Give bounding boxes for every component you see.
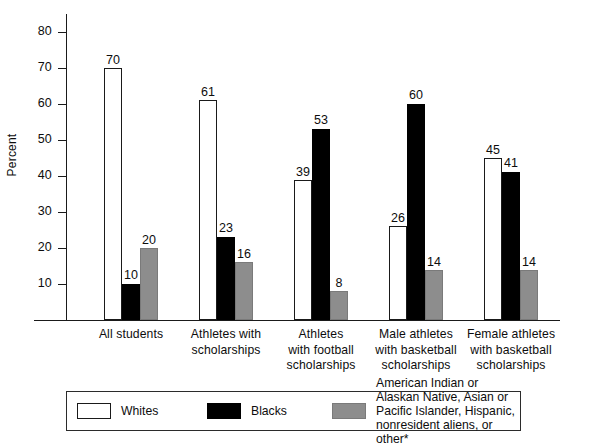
bar-group: 612316 [199, 14, 253, 320]
bar: 70 [104, 68, 122, 320]
bar: 20 [140, 248, 158, 320]
bar: 41 [502, 172, 520, 320]
bar-value-label: 39 [296, 166, 310, 179]
bar-group: 266014 [389, 14, 443, 320]
y-axis-tick-label: 30 [0, 205, 52, 217]
legend-item: American Indian or Alaskan Native, Asian… [332, 392, 520, 430]
y-axis-tick-label: 60 [0, 97, 52, 109]
bar-value-label: 10 [124, 269, 138, 282]
y-axis-tick [58, 248, 66, 249]
y-axis-tick-label: 40 [0, 169, 52, 181]
bar: 45 [484, 158, 502, 320]
legend-swatch [77, 403, 111, 419]
bar-value-label: 8 [336, 277, 343, 290]
bar: 16 [235, 262, 253, 320]
bar: 10 [122, 284, 140, 320]
bar-value-label: 60 [409, 89, 423, 102]
legend-swatch [207, 403, 241, 419]
bar-value-label: 70 [106, 54, 120, 67]
bar: 26 [389, 226, 407, 320]
bar: 14 [520, 270, 538, 320]
bar: 39 [294, 180, 312, 320]
bar: 8 [330, 291, 348, 320]
y-axis-tick [58, 104, 66, 105]
bar: 14 [425, 270, 443, 320]
bar-value-label: 61 [201, 86, 215, 99]
bar: 53 [312, 129, 330, 320]
x-axis-category-label: Female athletes with basketball scholars… [452, 327, 570, 374]
y-axis-tick-label: 20 [0, 241, 52, 253]
bar-value-label: 26 [391, 212, 405, 225]
y-axis-tick [58, 284, 66, 285]
y-axis-tick [58, 140, 66, 141]
legend-swatch [332, 403, 366, 419]
bar-group: 701020 [104, 14, 158, 320]
y-axis-tick [58, 212, 66, 213]
bar: 60 [407, 104, 425, 320]
bar-value-label: 53 [314, 114, 328, 127]
y-axis-tick-label: 70 [0, 61, 52, 73]
bar-value-label: 23 [219, 222, 233, 235]
bar-value-label: 45 [486, 144, 500, 157]
bar-value-label: 14 [427, 256, 441, 269]
bar-value-label: 20 [142, 234, 156, 247]
bar-group: 454114 [484, 14, 538, 320]
legend-item: Blacks [207, 392, 287, 430]
bar: 23 [217, 237, 235, 320]
plot-area: 70102061231639538266014454114 [66, 14, 560, 320]
legend-item: Whites [77, 392, 158, 430]
bar-value-label: 14 [522, 256, 536, 269]
bar-group: 39538 [294, 14, 348, 320]
y-axis-tick-label: 10 [0, 277, 52, 289]
legend-label: Blacks [251, 404, 287, 418]
legend-label: American Indian or Alaskan Native, Asian… [376, 376, 520, 446]
y-axis-tick-label: 50 [0, 133, 52, 145]
y-axis-tick [58, 32, 66, 33]
legend-label: Whites [121, 404, 158, 418]
bar: 61 [199, 100, 217, 320]
y-axis-tick [58, 68, 66, 69]
y-axis-tick-label: 80 [0, 25, 52, 37]
chart-legend: WhitesBlacksAmerican Indian or Alaskan N… [66, 391, 521, 431]
bar-value-label: 16 [237, 248, 251, 261]
y-axis-tick [58, 176, 66, 177]
bar-value-label: 41 [504, 157, 518, 170]
x-axis-line [34, 320, 560, 321]
